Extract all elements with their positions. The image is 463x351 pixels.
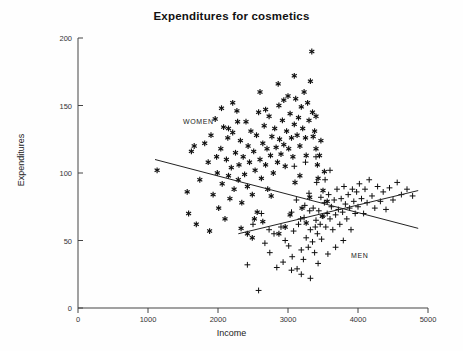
data-point-men: [341, 184, 347, 190]
series-women-points: [155, 49, 330, 241]
axes: [78, 38, 428, 308]
data-point-women: [290, 154, 295, 160]
series-men-points: [245, 154, 416, 293]
data-point-women: [235, 119, 240, 125]
data-point-women: [304, 153, 309, 159]
data-point-women: [251, 149, 256, 155]
data-point-men: [294, 266, 300, 272]
data-point-men: [280, 259, 286, 265]
data-point-men: [340, 209, 346, 215]
data-point-men: [286, 243, 292, 249]
data-point-women: [230, 130, 235, 136]
data-point-women: [325, 198, 330, 204]
data-point-women: [311, 134, 316, 140]
x-tick-label: 2000: [210, 315, 227, 324]
data-point-men: [267, 250, 273, 256]
data-point-women: [312, 128, 317, 134]
data-point-men: [322, 177, 328, 183]
data-point-women: [293, 96, 298, 102]
x-tick-label: 5000: [420, 315, 437, 324]
data-point-women: [283, 163, 288, 169]
data-point-women: [222, 216, 227, 222]
data-point-men: [291, 228, 297, 234]
data-point-women: [224, 157, 229, 163]
data-point-men: [345, 192, 351, 198]
data-point-men: [387, 185, 393, 191]
data-point-women: [275, 159, 280, 165]
data-point-men: [312, 224, 318, 230]
data-point-men: [315, 261, 321, 267]
data-point-men: [310, 239, 316, 245]
data-point-women: [274, 144, 279, 150]
data-point-women: [252, 216, 257, 222]
data-point-men: [327, 167, 333, 173]
data-point-women: [227, 196, 232, 202]
data-point-men: [317, 221, 323, 227]
data-point-women: [271, 170, 276, 176]
data-point-women: [255, 209, 260, 215]
y-tick-label: 200: [59, 34, 72, 43]
data-point-men: [330, 227, 336, 233]
data-point-women: [221, 124, 226, 130]
data-point-women: [254, 132, 259, 138]
data-point-men: [340, 238, 346, 244]
data-point-women: [260, 219, 265, 225]
data-point-women: [211, 192, 216, 198]
data-point-women: [256, 109, 261, 115]
data-point-women: [296, 115, 301, 121]
data-point-men: [307, 208, 313, 214]
data-point-women: [250, 235, 255, 241]
data-point-men: [319, 236, 325, 242]
data-point-women: [236, 162, 241, 168]
data-point-women: [197, 177, 202, 183]
data-point-women: [305, 100, 310, 106]
data-point-women: [280, 117, 285, 123]
data-point-men: [301, 257, 307, 263]
scatter-plot-figure: Expenditures for cosmetics Expenditures …: [0, 0, 463, 351]
data-point-men: [325, 251, 331, 257]
data-point-women: [276, 81, 281, 87]
data-point-men: [404, 186, 410, 192]
data-point-women: [267, 113, 272, 119]
data-point-women: [295, 132, 300, 138]
data-point-women: [226, 173, 231, 179]
data-point-men: [351, 198, 357, 204]
data-point-women: [229, 165, 234, 171]
data-point-women: [242, 171, 247, 177]
data-point-men: [298, 247, 304, 253]
data-point-women: [322, 169, 327, 175]
data-point-men: [308, 227, 314, 233]
data-point-men: [337, 221, 343, 227]
data-point-men: [266, 227, 272, 233]
data-point-women: [192, 143, 197, 149]
x-axis-ticks: 010002000300040005000: [76, 308, 436, 324]
data-point-women: [310, 109, 315, 115]
data-point-women: [281, 97, 286, 103]
data-point-women: [232, 186, 237, 192]
y-tick-label: 0: [68, 304, 72, 313]
data-point-men: [410, 193, 416, 199]
data-point-men: [303, 235, 309, 241]
data-point-women: [300, 126, 305, 132]
data-point-women: [239, 225, 244, 231]
data-point-women: [225, 135, 230, 141]
data-point-women: [207, 228, 212, 234]
data-point-women: [304, 220, 309, 226]
data-point-men: [306, 190, 312, 196]
data-point-men: [327, 216, 333, 222]
data-point-women: [281, 142, 286, 148]
data-point-women: [278, 151, 283, 157]
data-point-men: [348, 227, 354, 233]
data-point-women: [247, 159, 252, 165]
data-point-women: [226, 126, 231, 132]
data-point-men: [338, 196, 344, 202]
data-point-men: [390, 197, 396, 203]
data-point-women: [218, 146, 223, 152]
data-point-men: [369, 193, 375, 199]
data-point-men: [333, 244, 339, 250]
data-point-women: [185, 189, 190, 195]
data-point-men: [310, 205, 316, 211]
data-point-women: [238, 138, 243, 144]
data-point-men: [312, 250, 318, 256]
data-point-women: [263, 162, 268, 168]
